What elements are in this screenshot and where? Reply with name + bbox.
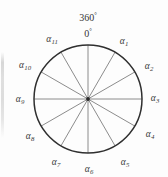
alpha-2-label: α2 [145,62,154,72]
center-point [86,97,90,101]
alpha-9-label: α9 [16,95,25,105]
alpha-1-label: α1 [120,37,129,47]
scan-edge-artifact [1,52,4,138]
alpha-8-label: α8 [26,132,35,142]
alpha-6-label: α6 [85,165,94,175]
deg-0-label: 0° [84,27,92,38]
figure-container: 360°0° α1α2α3α4α5α6α7α8α9α10α11 [0,0,168,177]
alpha-3-label: α3 [151,94,160,104]
deg-360-label: 360° [79,11,97,22]
alpha-10-label: α10 [19,61,31,71]
alpha-11-label: α11 [46,35,58,45]
alpha-5-label: α5 [121,158,130,168]
alpha-4-label: α4 [146,130,155,140]
alpha-7-label: α7 [52,158,61,168]
